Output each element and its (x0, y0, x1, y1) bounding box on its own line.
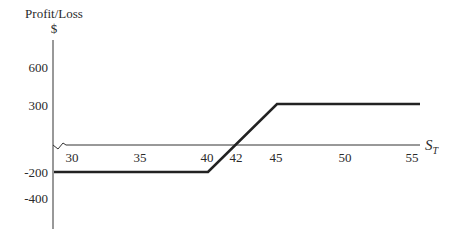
y-tick-600: 600 (29, 60, 49, 75)
x-axis-title: ST (425, 137, 440, 156)
x-tick-42: 42 (230, 150, 243, 165)
x-tick-30: 30 (66, 150, 79, 165)
x-tick-35: 35 (134, 150, 147, 165)
y-axis-unit: $ (51, 21, 58, 36)
y-tick-neg200: -200 (24, 165, 48, 180)
x-tick-50: 50 (339, 150, 352, 165)
y-axis-title: Profit/Loss (25, 6, 83, 21)
x-tick-55: 55 (406, 150, 419, 165)
y-tick-300: 300 (29, 98, 49, 113)
x-tick-45: 45 (270, 150, 283, 165)
payoff-chart: Profit/Loss $ 600 300 -200 -400 30 35 40… (0, 0, 460, 241)
y-tick-neg400: -400 (24, 191, 48, 206)
x-tick-40: 40 (201, 150, 214, 165)
